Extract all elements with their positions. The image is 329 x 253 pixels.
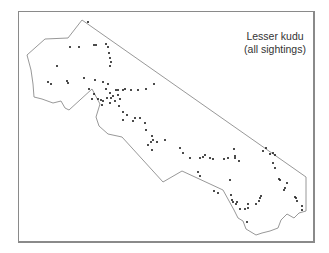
sighting-point <box>150 141 152 143</box>
sighting-point <box>259 197 261 199</box>
sighting-point <box>122 119 124 121</box>
sighting-point <box>109 65 111 67</box>
sighting-point <box>199 157 201 159</box>
sighting-point <box>83 77 85 79</box>
sighting-point <box>265 147 267 149</box>
sighting-point <box>272 162 274 164</box>
sighting-point <box>117 89 119 91</box>
sighting-point <box>227 157 229 159</box>
sighting-point <box>108 52 110 54</box>
sighting-point <box>151 135 153 137</box>
sighting-point <box>283 189 285 191</box>
sighting-point <box>179 147 181 149</box>
sighting-point <box>117 94 119 96</box>
sighting-point <box>189 157 191 159</box>
sighting-point <box>47 81 49 83</box>
sighting-point <box>102 100 104 102</box>
sighting-point <box>144 122 146 124</box>
sighting-point <box>112 95 114 97</box>
sighting-point <box>246 221 248 223</box>
sighting-point <box>231 199 233 201</box>
sighting-point <box>130 89 132 91</box>
sighting-point <box>274 154 276 156</box>
sighting-point <box>151 149 153 151</box>
sighting-point <box>145 129 147 131</box>
sighting-point <box>274 167 276 169</box>
sighting-point <box>199 175 201 177</box>
sighting-point <box>230 194 232 196</box>
sighting-point <box>244 208 246 210</box>
sighting-point <box>109 57 111 59</box>
sighting-point <box>235 203 237 205</box>
map-title-species: Lesser kudu <box>230 30 320 43</box>
sighting-point <box>105 43 107 45</box>
sighting-point <box>69 46 71 48</box>
sighting-point <box>137 89 139 91</box>
sighting-point <box>247 207 249 209</box>
sighting-point <box>93 44 95 46</box>
sighting-point <box>95 44 97 46</box>
sighting-point <box>93 93 95 95</box>
sighting-point <box>153 83 155 85</box>
sighting-point <box>258 200 260 202</box>
sighting-point <box>109 102 111 104</box>
sighting-point <box>105 88 107 90</box>
sighting-point <box>202 156 204 158</box>
sighting-point <box>100 99 102 101</box>
sighting-point <box>122 111 124 113</box>
sighting-point <box>87 21 89 23</box>
sighting-point <box>239 208 241 210</box>
sighting-point <box>107 46 109 48</box>
sighting-point <box>286 182 288 184</box>
sighting-point <box>295 197 297 199</box>
sighting-point <box>234 157 236 159</box>
sighting-point <box>152 139 154 141</box>
sighting-point <box>114 100 116 102</box>
sighting-point <box>110 61 112 63</box>
sighting-point <box>213 190 215 192</box>
sighting-point <box>182 152 184 154</box>
sighting-point <box>124 88 126 90</box>
sighting-point <box>233 148 235 150</box>
sighting-point <box>247 203 249 205</box>
sighting-point <box>217 192 219 194</box>
sighting-point <box>269 153 271 155</box>
sighting-point <box>118 105 120 107</box>
sighting-point <box>91 98 93 100</box>
sighting-point <box>204 154 206 156</box>
sighting-point <box>232 201 234 203</box>
sighting-point <box>212 158 214 160</box>
sighting-point <box>223 158 225 160</box>
sighting-point <box>110 97 112 99</box>
sighting-point <box>56 65 58 67</box>
sighting-point <box>197 171 199 173</box>
sighting-point <box>234 155 236 157</box>
sighting-point <box>296 200 298 202</box>
sighting-point <box>145 88 147 90</box>
sighting-point <box>147 144 149 146</box>
sighting-point <box>88 88 90 90</box>
sighting-point <box>236 201 238 203</box>
sighting-point <box>301 205 303 207</box>
sighting-point <box>238 160 240 162</box>
map-title: Lesser kudu (all sightings) <box>230 30 320 56</box>
sighting-point <box>156 141 158 143</box>
sighting-point <box>164 139 166 141</box>
sighting-point <box>126 114 128 116</box>
sighting-point <box>209 157 211 159</box>
sighting-point <box>78 46 80 48</box>
sighting-point <box>115 89 117 91</box>
sighting-point <box>109 92 111 94</box>
sighting-point <box>102 81 104 83</box>
sighting-point <box>122 89 124 91</box>
sighting-point <box>66 80 68 82</box>
sighting-point <box>255 203 257 205</box>
sighting-point <box>97 98 99 100</box>
sighting-point <box>134 117 136 119</box>
sighting-point <box>67 82 69 84</box>
map-title-subtitle: (all sightings) <box>230 43 320 56</box>
sighting-point <box>262 150 264 152</box>
sighting-point <box>139 117 141 119</box>
sighting-point <box>94 79 96 81</box>
sighting-point <box>106 97 108 99</box>
